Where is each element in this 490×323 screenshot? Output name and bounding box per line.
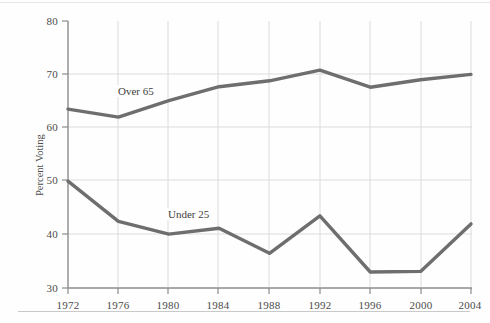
series-label-under-25: Under 25	[166, 208, 211, 220]
x-tick-label-1996: 1996	[350, 299, 390, 311]
x-tick-label-2004: 2004	[450, 299, 490, 311]
y-tick-label-60: 60	[34, 121, 58, 133]
x-tick-marks	[68, 288, 471, 294]
x-tick-label-1972: 1972	[48, 299, 88, 311]
series-label-over-65: Over 65	[116, 85, 156, 97]
x-tick-label-1988: 1988	[249, 299, 289, 311]
y-tick-label-50: 50	[34, 174, 58, 186]
y-tick-marks	[62, 21, 68, 288]
y-tick-label-40: 40	[34, 228, 58, 240]
x-tick-label-2000: 2000	[401, 299, 441, 311]
y-tick-label-30: 30	[34, 282, 58, 294]
axis-lines	[68, 21, 472, 288]
x-tick-label-1984: 1984	[198, 299, 238, 311]
grid-lines	[68, 21, 472, 287]
x-tick-label-1980: 1980	[148, 299, 188, 311]
x-tick-label-1992: 1992	[300, 299, 340, 311]
chart-page: Percent Voting 80 70 60 50 40 30 1972 19…	[0, 0, 490, 323]
y-tick-label-70: 70	[34, 68, 58, 80]
line-chart	[0, 0, 490, 323]
y-tick-label-80: 80	[34, 15, 58, 27]
x-tick-label-1976: 1976	[98, 299, 138, 311]
y-axis-title: Percent Voting	[34, 134, 45, 196]
